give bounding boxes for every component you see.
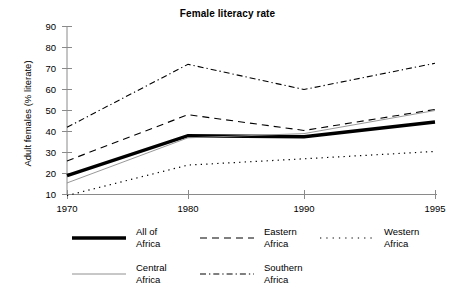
series-line-southern-africa xyxy=(67,63,435,127)
legend-swatch-solid-thin xyxy=(70,268,128,280)
legend-entry-southern-africa[interactable]: Southern Africa xyxy=(198,264,348,298)
legend-label: All of Africa xyxy=(136,226,160,249)
y-tick-label: 40 xyxy=(45,126,56,137)
legend-swatch-dash-dot xyxy=(198,268,256,280)
legend-swatch-solid-thick xyxy=(70,232,128,244)
x-tick-label: 1970 xyxy=(56,203,77,214)
x-tick-label: 1990 xyxy=(293,203,314,214)
series-line-central-africa xyxy=(67,111,435,183)
y-tick-label: 50 xyxy=(45,105,56,116)
legend-swatch-dotted xyxy=(318,232,376,244)
legend-row: Central Africa Southern Africa xyxy=(0,264,455,298)
y-tick-label: 80 xyxy=(45,42,56,53)
legend-label: Central Africa xyxy=(136,262,167,285)
data-series-group xyxy=(67,63,435,195)
y-tick-label: 10 xyxy=(45,189,56,200)
chart-container: Female literacy rate Adult females (% li… xyxy=(0,0,455,306)
legend-swatch-dashed xyxy=(198,232,256,244)
legend-label: Southern Africa xyxy=(264,262,303,285)
legend-label: Western Africa xyxy=(384,226,419,249)
series-line-all-of-africa xyxy=(67,122,435,176)
x-tick-labels: 1970 1980 1990 1995 xyxy=(56,203,445,214)
legend-label: Eastern Africa xyxy=(264,226,297,249)
x-tick-label: 1980 xyxy=(177,203,198,214)
y-tick-label: 60 xyxy=(45,84,56,95)
y-tick-label: 20 xyxy=(45,168,56,179)
y-tick-label: 90 xyxy=(45,21,56,32)
y-tick-labels: 90 80 70 60 50 40 30 20 10 xyxy=(45,21,56,200)
chart-legend: All of Africa Eastern Africa Western Afr… xyxy=(0,228,455,306)
plot-area: 90 80 70 60 50 40 30 20 10 1970 1980 199… xyxy=(0,0,455,226)
legend-row: All of Africa Eastern Africa Western Afr… xyxy=(0,228,455,262)
y-tick-label: 30 xyxy=(45,147,56,158)
x-tick-label: 1995 xyxy=(424,203,445,214)
y-tick-label: 70 xyxy=(45,63,56,74)
legend-entry-western-africa[interactable]: Western Africa xyxy=(318,228,455,262)
